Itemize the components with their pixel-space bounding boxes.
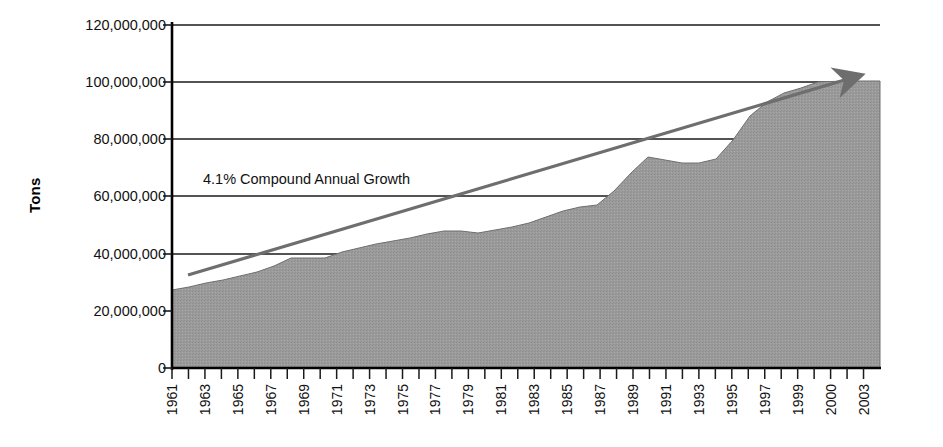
x-tick-label: 1981	[494, 384, 508, 415]
x-tick-label: 1987	[593, 384, 607, 415]
x-tick-label: 1961	[165, 384, 179, 415]
x-tick-label: 2000	[824, 384, 838, 415]
x-tick-label: 1969	[297, 384, 311, 415]
growth-annotation-label: 4.1% Compound Annual Growth	[203, 171, 410, 187]
x-tick-label: 1977	[428, 384, 442, 415]
chart-container: Tons 120,000,000 100,000,000 80,000,000 …	[0, 0, 943, 447]
x-tick-label: 1971	[330, 384, 344, 415]
x-tick-label: 1999	[791, 384, 805, 415]
x-tick-label: 1963	[198, 384, 212, 415]
x-tick-label: 2003	[857, 384, 871, 415]
x-tick-label: 1979	[461, 384, 475, 415]
x-tick-label: 1965	[231, 384, 245, 415]
x-tick-label: 1997	[758, 384, 772, 415]
x-tick-label: 1975	[396, 384, 410, 415]
x-tick-label: 1993	[692, 384, 706, 415]
x-tick-label-group: 1961196319651967196919711973197519771979…	[0, 0, 943, 447]
x-tick-label: 1967	[264, 384, 278, 415]
x-tick-label: 1985	[560, 384, 574, 415]
x-tick-label: 1983	[527, 384, 541, 415]
x-tick-label: 1989	[626, 384, 640, 415]
x-tick-label: 1973	[363, 384, 377, 415]
x-tick-label: 1991	[659, 384, 673, 415]
x-tick-label: 1995	[725, 384, 739, 415]
